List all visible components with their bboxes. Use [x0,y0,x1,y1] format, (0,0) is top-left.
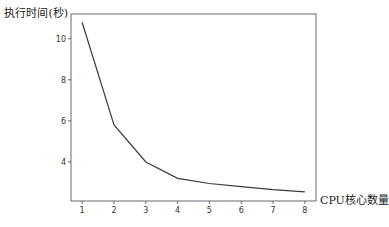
y-tick-label: 6 [61,117,66,126]
y-tick-label: 4 [61,158,66,167]
y-axis-label: 执行时间(秒) [4,6,68,20]
x-tick-label: 1 [80,206,85,215]
x-tick-label: 3 [143,206,148,215]
plot-frame [71,14,316,201]
x-axis-ticks: 12345678 [80,201,308,215]
x-tick-label: 2 [111,206,116,215]
y-tick-label: 10 [56,35,66,44]
x-tick-label: 4 [175,206,180,215]
x-axis-label: CPU核心数量 [320,193,389,207]
x-tick-label: 8 [302,206,307,215]
x-tick-label: 5 [207,206,212,215]
x-tick-label: 6 [239,206,244,215]
execution-time-line [82,22,305,192]
y-axis-ticks: 46810 [56,35,71,167]
line-chart: 46810 12345678 执行时间(秒) CPU核心数量 [0,0,389,227]
x-tick-label: 7 [270,206,275,215]
y-tick-label: 8 [61,76,66,85]
